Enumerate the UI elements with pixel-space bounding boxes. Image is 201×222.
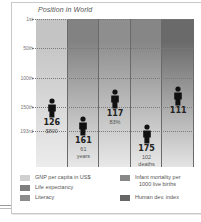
y-tick-label: 50th: [12, 45, 33, 51]
legend-label: Human dev. index: [135, 194, 179, 201]
gridline: [32, 78, 194, 79]
value-annotation: 102: [131, 154, 163, 161]
column-gnp: [36, 19, 68, 167]
rank-value: 117: [99, 109, 131, 118]
person-icon: [140, 124, 154, 144]
y-tick-label: 1st: [12, 16, 33, 22]
person-icon: [171, 86, 185, 106]
y-tick-label: 150th: [12, 104, 33, 110]
person-icon: [108, 89, 122, 109]
y-tick-label: 100th: [12, 75, 33, 81]
value-annotation: 83%: [99, 119, 131, 126]
value-annotation: 61: [67, 146, 99, 153]
legend-label-line2: 1000 live births: [139, 181, 176, 188]
legend-label: Literacy: [35, 194, 54, 201]
value-annotation-unit: deaths: [131, 161, 163, 168]
gridline: [32, 48, 194, 49]
gridline: [32, 19, 194, 20]
person-icon: [45, 98, 59, 118]
legend-swatch-gnp: [20, 175, 30, 181]
legend-swatch-literacy: [20, 195, 30, 201]
rank-value: 175: [131, 144, 163, 153]
value-annotation-unit: years: [67, 153, 99, 160]
rank-value: 161: [67, 136, 99, 145]
person-icon: [76, 116, 90, 136]
chart-title: Position in World: [38, 6, 92, 13]
legend-swatch-life-expectancy: [20, 185, 30, 191]
legend-swatch-human-dev-index: [120, 195, 130, 201]
rank-value: 111: [162, 106, 194, 115]
legend-swatch-infant-mortality: [120, 175, 130, 181]
legend-label: Life expectancy: [35, 184, 73, 191]
legend-label: Infant mortality per: [135, 174, 181, 181]
rank-value: 126: [36, 118, 68, 127]
legend-label: GNP per capita in US$: [35, 174, 91, 181]
value-annotation: $800: [36, 128, 68, 135]
y-tick-label: 193rd: [12, 128, 33, 134]
